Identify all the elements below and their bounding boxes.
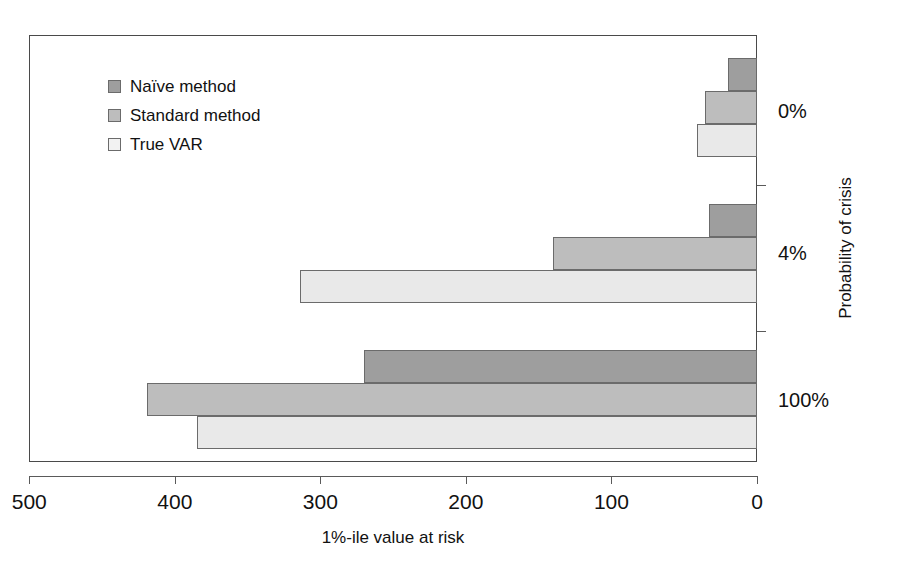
legend-item-truevar: True VAR bbox=[108, 130, 260, 159]
bar-truevar-0pct bbox=[697, 124, 757, 157]
bar-naive-4pct bbox=[709, 204, 757, 237]
x-tick-label-500: 500 bbox=[12, 490, 47, 514]
y-tick-label-0pct: 0% bbox=[778, 100, 807, 123]
y-tick-1 bbox=[757, 331, 766, 332]
bar-standard-0pct bbox=[705, 91, 757, 124]
bar-standard-100pct bbox=[147, 383, 757, 416]
x-tick-200 bbox=[466, 476, 467, 484]
chart-legend: Naïve method Standard method True VAR bbox=[108, 72, 260, 159]
x-tick-label-300: 300 bbox=[303, 490, 338, 514]
y-tick-0 bbox=[757, 185, 766, 186]
bar-chart: Naïve method Standard method True VAR 50… bbox=[0, 0, 900, 578]
x-tick-label-200: 200 bbox=[448, 490, 483, 514]
legend-label-truevar: True VAR bbox=[130, 130, 203, 159]
bar-naive-100pct bbox=[364, 350, 757, 383]
legend-swatch-truevar-icon bbox=[108, 138, 121, 151]
legend-label-standard: Standard method bbox=[130, 101, 260, 130]
legend-swatch-standard-icon bbox=[108, 109, 121, 122]
y-tick-label-4pct: 4% bbox=[778, 242, 807, 265]
y-tick-label-100pct: 100% bbox=[778, 389, 829, 412]
x-axis-title: 1%-ile value at risk bbox=[29, 528, 757, 548]
x-tick-400 bbox=[175, 476, 176, 484]
bar-standard-4pct bbox=[553, 237, 757, 270]
y-axis-title: Probability of crisis bbox=[836, 177, 856, 319]
x-tick-100 bbox=[611, 476, 612, 484]
x-axis-line bbox=[29, 476, 757, 477]
legend-item-naive: Naïve method bbox=[108, 72, 260, 101]
legend-item-standard: Standard method bbox=[108, 101, 260, 130]
legend-swatch-naive-icon bbox=[108, 80, 121, 93]
bar-truevar-4pct bbox=[300, 270, 757, 303]
x-tick-label-100: 100 bbox=[594, 490, 629, 514]
bar-truevar-100pct bbox=[197, 416, 757, 449]
legend-label-naive: Naïve method bbox=[130, 72, 236, 101]
x-tick-500 bbox=[29, 476, 30, 484]
x-tick-label-0: 0 bbox=[751, 490, 763, 514]
bar-naive-0pct bbox=[728, 58, 757, 91]
x-tick-0 bbox=[757, 476, 758, 484]
x-tick-label-400: 400 bbox=[157, 490, 192, 514]
x-tick-300 bbox=[320, 476, 321, 484]
